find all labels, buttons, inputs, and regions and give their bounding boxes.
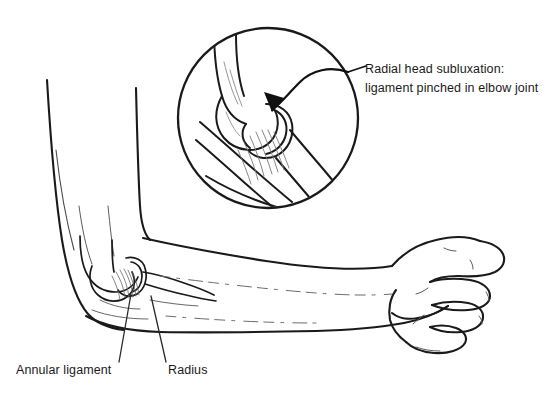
callout-line-1: Radial head subluxation: [365, 60, 538, 79]
radius-label: Radius [168, 363, 208, 377]
elbow-joint-bones [80, 236, 216, 301]
upper-arm-inner-shading [56, 150, 114, 264]
medical-illustration-figure: Radial head subluxation: ligament pinche… [0, 0, 556, 409]
radius-leader-line [151, 296, 166, 362]
magnifier-circle-inset [178, 28, 358, 228]
forearm-interior-dashes [160, 276, 392, 323]
hand-crease-marks [413, 248, 489, 351]
callout-line-2: ligament pinched in elbow joint [365, 79, 538, 98]
callout-leader-line [348, 66, 366, 72]
callout-text-block: Radial head subluxation: ligament pinche… [365, 60, 538, 98]
annular-ligament-label: Annular ligament [16, 363, 111, 377]
hand-outline [389, 237, 504, 353]
elbow-soft-tissue-lines [92, 300, 198, 319]
